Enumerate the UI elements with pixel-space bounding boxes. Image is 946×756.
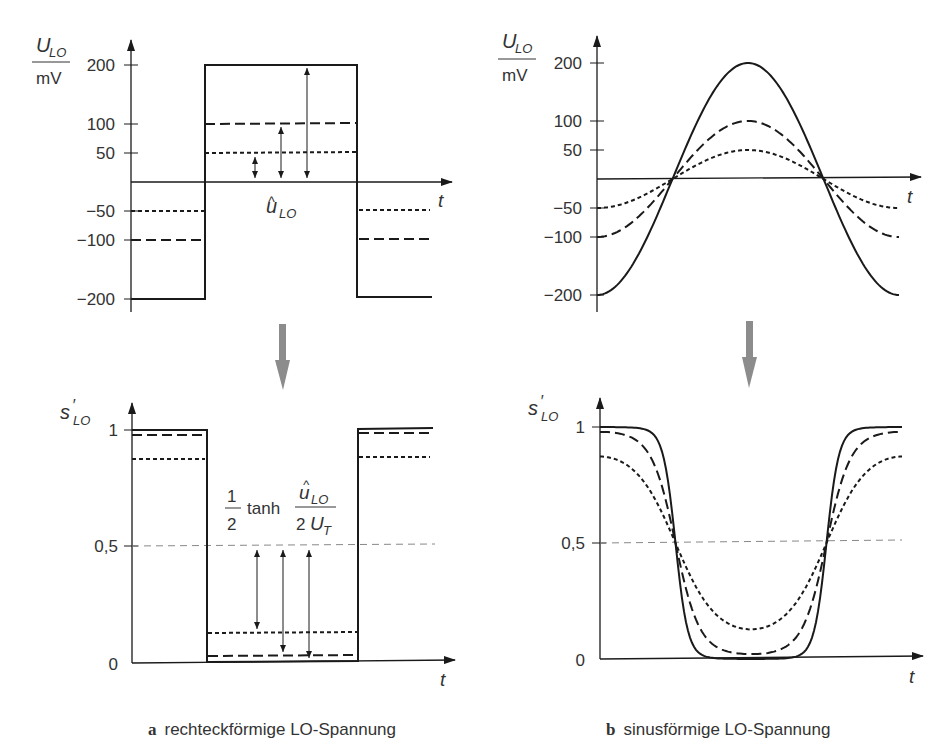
svg-text:mV: mV [36, 69, 62, 88]
caption-b-text: sinusförmige LO-Spannung [623, 720, 830, 739]
caption-a: arechteckförmige LO-Spannung [148, 720, 396, 740]
tick-minus-50: −50 [553, 199, 582, 218]
transform-arrow-b [742, 321, 757, 388]
svg-text:′: ′ [72, 397, 76, 414]
tick-0: 0 [576, 651, 585, 670]
svg-text:u: u [299, 482, 310, 503]
tick-0-5: 0,5 [94, 537, 118, 556]
svg-text:LO: LO [73, 413, 90, 428]
chart-b-bottom: 1 0,5 0 s ′ LO t [528, 393, 923, 687]
tick-1: 1 [109, 421, 118, 440]
tick-minus-100: −100 [544, 228, 582, 247]
tick-200: 200 [554, 54, 582, 73]
tick-100: 100 [554, 112, 582, 131]
svg-text:′: ′ [540, 393, 544, 410]
x-axis-label: t [907, 186, 913, 207]
svg-text:LO: LO [311, 492, 328, 507]
svg-text:s: s [528, 397, 538, 419]
caption-a-letter: a [148, 720, 157, 739]
svg-text:s: s [60, 401, 70, 423]
uhat-annotation: ^ u LO [266, 194, 296, 221]
y-axis-label: s ′ LO [528, 393, 558, 424]
chart-b-top: 200 100 50 −50 −100 −200 U LO mV t [498, 30, 921, 312]
svg-text:LO: LO [279, 206, 296, 221]
svg-text:LO: LO [541, 409, 558, 424]
series-50mv [600, 457, 902, 630]
series-200mv [600, 427, 902, 659]
tick-minus-200: −200 [544, 286, 582, 305]
tick-50: 50 [563, 141, 582, 160]
tick-minus-200: −200 [77, 290, 115, 309]
svg-text:U: U [310, 513, 324, 534]
svg-text:1: 1 [227, 487, 236, 506]
y-axis-label: U LO mV [498, 30, 536, 85]
chart-a-top: 200 100 50 −50 −100 −200 U LO mV t [32, 34, 452, 312]
caption-b: bsinusförmige LO-Spannung [606, 720, 830, 740]
tick-100: 100 [87, 115, 115, 134]
svg-text:u: u [266, 195, 277, 217]
svg-text:2: 2 [296, 515, 305, 534]
svg-text:LO: LO [49, 45, 66, 60]
tanh-arrows [257, 550, 309, 658]
tick-1: 1 [576, 418, 585, 437]
svg-text:tanh: tanh [247, 499, 280, 518]
tanh-formula: 1 2 tanh ^ u LO 2 U T [225, 477, 336, 538]
tick-minus-100: −100 [77, 231, 115, 250]
x-axis-label: t [438, 190, 444, 211]
chart-a-bottom: 1 0,5 0 s ′ LO t 1 2 tanh [60, 397, 455, 690]
svg-text:T: T [323, 523, 332, 538]
guide-0-5 [600, 540, 902, 543]
svg-text:LO: LO [515, 41, 532, 56]
x-axis-label: t [909, 666, 915, 687]
tick-50: 50 [96, 144, 115, 163]
x-axis [597, 177, 921, 179]
svg-text:mV: mV [502, 66, 528, 85]
series-100mv [600, 432, 902, 654]
y-axis-label: U LO mV [32, 34, 70, 88]
tick-200: 200 [87, 56, 115, 75]
tick-minus-50: −50 [86, 202, 115, 221]
tick-0: 0 [109, 655, 118, 674]
figure-canvas: 200 100 50 −50 −100 −200 U LO mV t [0, 0, 946, 756]
guide-0-5 [132, 544, 435, 546]
svg-text:2: 2 [227, 515, 236, 534]
y-axis-label: s ′ LO [60, 397, 90, 428]
tick-0-5: 0,5 [561, 534, 585, 553]
caption-a-text: rechteckförmige LO-Spannung [165, 720, 397, 739]
transform-arrow-a [275, 324, 290, 390]
caption-b-letter: b [606, 720, 615, 739]
x-axis-label: t [440, 669, 446, 690]
